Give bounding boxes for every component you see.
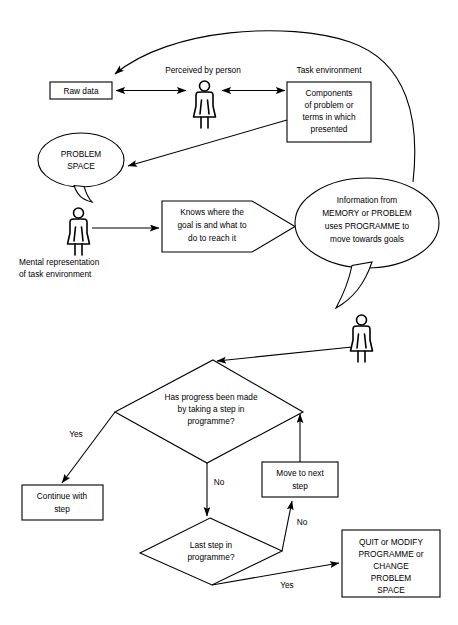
label-perceived-by-person: Perceived by person: [165, 65, 241, 75]
label-knows-where-line-2: goal is and what to: [177, 220, 247, 230]
label-components-line-2: of problem or: [305, 100, 354, 110]
label-mental-representation-line-2: of task environment: [19, 269, 92, 279]
label-components-line-1: Components: [305, 88, 352, 98]
label-continue-line-2: step: [54, 504, 70, 514]
label-edge-last-step-no: No: [297, 517, 308, 527]
label-components-line-4: presented: [311, 124, 348, 134]
label-edge-progress-yes: Yes: [69, 429, 83, 439]
label-continue-line-1: Continue with: [37, 491, 88, 501]
label-knows-where-line-3: do to reach it: [188, 233, 237, 243]
label-quit-line-5: SPACE: [377, 585, 405, 595]
label-decision-progress-line-1: Has progress been made: [164, 392, 258, 402]
label-edge-progress-no: No: [214, 477, 225, 487]
label-problem-space-line-1: PROBLEM: [61, 149, 102, 159]
label-mental-representation-line-1: Mental representation: [19, 257, 100, 267]
label-move-next-line-2: step: [292, 481, 308, 491]
diagram-text-layer: Raw data Perceived by person Task enviro…: [0, 0, 458, 625]
label-task-environment: Task environment: [296, 65, 362, 75]
label-information-line-2: MEMORY or PROBLEM: [322, 208, 412, 218]
label-information-line-1: Information from: [337, 195, 397, 205]
label-decision-progress-line-2: by taking a step in: [178, 404, 245, 414]
label-information-line-3: uses PROGRAMME to: [325, 221, 410, 231]
label-information-line-4: move towards goals: [330, 234, 404, 244]
label-quit-line-2: PROGRAMME or: [359, 549, 424, 559]
label-quit-line-3: CHANGE: [373, 561, 409, 571]
label-raw-data: Raw data: [63, 86, 98, 96]
label-decision-progress-line-3: programme?: [187, 416, 234, 426]
label-decision-last-step-line-1: Last step in: [190, 540, 233, 550]
label-components-line-3: terms in which: [302, 112, 355, 122]
label-problem-space-line-2: SPACE: [67, 161, 95, 171]
label-decision-last-step-line-2: programme?: [187, 552, 234, 562]
diagram-root: Raw data Perceived by person Task enviro…: [0, 0, 458, 625]
label-quit-line-4: PROBLEM: [371, 573, 412, 583]
label-move-next-line-1: Move to next: [276, 468, 324, 478]
label-knows-where-line-1: Knows where the: [180, 207, 244, 217]
label-edge-last-step-yes: Yes: [280, 580, 294, 590]
label-quit-line-1: QUIT or MODIFY: [359, 537, 423, 547]
